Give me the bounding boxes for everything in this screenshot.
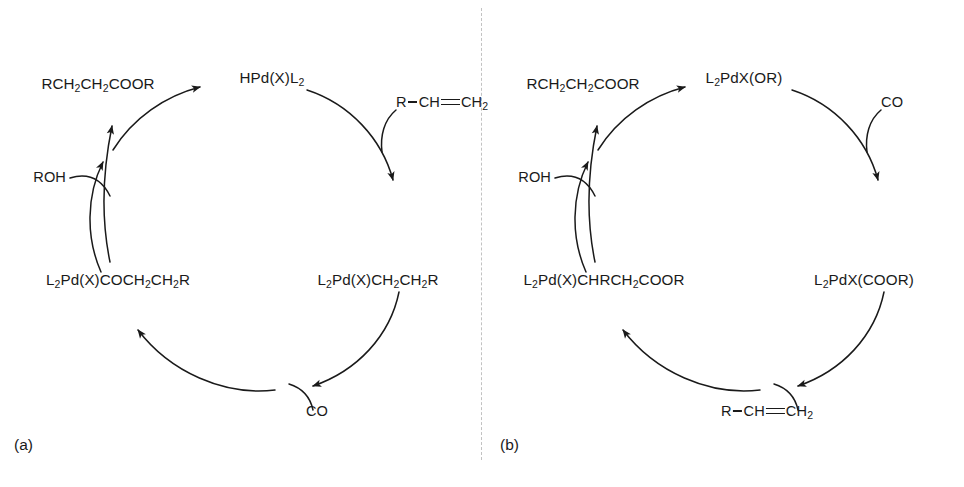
reagent-carbon-monoxide-b: CO bbox=[881, 95, 903, 110]
arc-to-alkyl-lower-b bbox=[798, 292, 884, 386]
panel-label-a: (a) bbox=[14, 436, 33, 454]
single-bond-icon bbox=[733, 410, 742, 411]
species-product-b: RCH2CH2COOR bbox=[526, 76, 639, 91]
species-alkyl-b: L2Pd(X)CHRCH2COOR bbox=[523, 272, 684, 287]
reagent-alkene-a: RCHCH2 bbox=[396, 95, 488, 110]
double-bond-icon bbox=[441, 102, 460, 103]
species-carboalkoxy-b: L2PdX(COOR) bbox=[814, 272, 914, 287]
species-acyl-a: L2Pd(X)COCH2CH2R bbox=[46, 272, 190, 287]
species-palladium-hydride-a: HPd(X)L2 bbox=[240, 70, 305, 85]
arc-to-alkyl-b bbox=[623, 330, 760, 391]
reagent-alcohol-a: ROH bbox=[33, 170, 66, 185]
feeder-alkene bbox=[382, 110, 396, 152]
species-product-a: RCH2CH2COOR bbox=[41, 76, 154, 91]
arrow-product-out bbox=[104, 126, 112, 262]
panel-b: RCH2CH2COOR L2PdX(OR) L2Pd(X)CHRCH2COOR … bbox=[482, 0, 964, 487]
arc-to-acyl-lower bbox=[313, 292, 399, 386]
arc-to-acyl bbox=[138, 330, 275, 391]
reagent-carbon-monoxide-a: CO bbox=[306, 404, 328, 419]
arc-to-hydride bbox=[113, 87, 200, 150]
feeder-co-b bbox=[867, 110, 881, 152]
arrow-product-out-b bbox=[589, 126, 597, 262]
panel-a: RCH2CH2COOR HPd(X)L2 L2Pd(X)COCH2CH2R L2… bbox=[0, 0, 482, 487]
catalytic-cycles-figure: RCH2CH2COOR HPd(X)L2 L2Pd(X)COCH2CH2R L2… bbox=[0, 0, 964, 487]
species-alkyl-a: L2Pd(X)CH2CH2R bbox=[317, 272, 438, 287]
reagent-alcohol-b: ROH bbox=[518, 170, 551, 185]
species-alkoxide-b: L2PdX(OR) bbox=[706, 70, 783, 85]
panel-label-b: (b) bbox=[500, 436, 519, 454]
arc-to-alkoxide bbox=[598, 87, 685, 150]
arc-to-alkyl bbox=[307, 90, 393, 180]
double-bond-icon bbox=[766, 411, 785, 412]
reagent-alkene-b: RCHCH2 bbox=[721, 404, 813, 419]
arc-to-carboalkoxy bbox=[792, 90, 878, 180]
single-bond-icon bbox=[408, 101, 417, 102]
